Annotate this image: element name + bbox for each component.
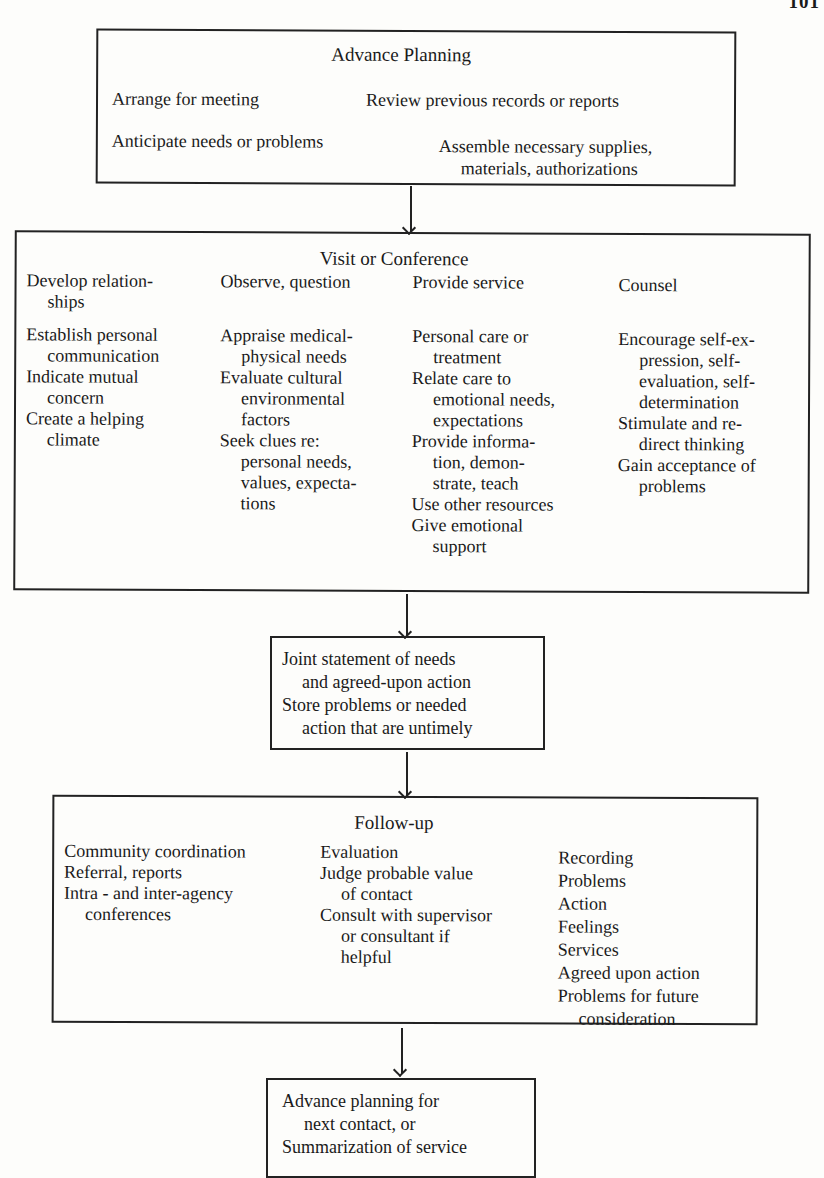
list-item: Relate care toemotional needs,expectatio… xyxy=(412,368,555,432)
list-item: Action xyxy=(558,893,700,916)
list-item: Stimulate and re-direct thinking xyxy=(618,413,756,456)
list-item: Evaluate culturalenvironmentalfactors xyxy=(220,367,357,431)
list-item: Services xyxy=(558,939,700,962)
list-item: Provide informa-tion, demon-strate, teac… xyxy=(412,431,555,495)
visit-conference-box: Visit or Conference Develop relation-shi… xyxy=(13,230,811,593)
visit-col-counsel: Counsel Encourage self-ex-pression, self… xyxy=(618,275,757,498)
follow-up-col-evaluation: Evaluation Judge probable valueof contac… xyxy=(320,842,492,969)
arrow-down-icon xyxy=(410,186,412,232)
list-item: Referral, reports xyxy=(64,862,246,884)
col-heading: Develop relation-ships xyxy=(26,270,159,313)
list-item: Seek clues re:personal needs,values, exp… xyxy=(220,430,357,515)
list-item: Establish personalcommunication xyxy=(26,324,159,367)
ap-item-assemble-cont: materials, authorizations xyxy=(461,158,638,180)
ap-item-anticipate: Anticipate needs or problems xyxy=(112,131,324,153)
arrow-down-icon xyxy=(406,594,408,636)
advance-planning-box: Advance Planning Arrange for meeting Rev… xyxy=(96,29,737,187)
visit-col-relationships: Develop relation-ships Establish persona… xyxy=(26,270,160,451)
page-number: 101 xyxy=(789,0,821,13)
advance-planning-title: Advance Planning xyxy=(331,44,471,67)
list-item: Personal care ortreatment xyxy=(412,326,555,369)
ap-item-assemble: Assemble necessary supplies, xyxy=(439,136,653,158)
follow-up-col-recording: Recording Problems Action Feelings Servi… xyxy=(558,847,701,1031)
list-item: Recording xyxy=(558,847,700,870)
visit-conference-title: Visit or Conference xyxy=(320,248,469,271)
list-item: Judge probable valueof contact xyxy=(320,863,492,906)
list-item: Create a helpingclimate xyxy=(26,408,159,451)
ap-item-review: Review previous records or reports xyxy=(366,90,619,112)
list-item: Appraise medical-physical needs xyxy=(220,325,357,368)
list-item: Evaluation xyxy=(320,842,492,864)
follow-up-title: Follow-up xyxy=(354,812,433,834)
follow-up-box: Follow-up Community coordination Referra… xyxy=(52,795,759,1025)
arrow-down-icon xyxy=(406,752,408,796)
list-item: Feelings xyxy=(558,916,700,939)
col-heading: Observe, question xyxy=(221,271,358,293)
arrow-down-icon xyxy=(401,1028,403,1074)
list-item: Problems for futureconsideration xyxy=(558,985,700,1031)
final-planning-box: Advance planning for next contact, or Su… xyxy=(266,1078,536,1178)
list-item: Intra - and inter-agencyconferences xyxy=(64,883,246,926)
final-planning-text: Advance planning for next contact, or Su… xyxy=(282,1090,467,1159)
list-item: Consult with supervisoror consultant ifh… xyxy=(320,905,492,969)
list-item: Agreed upon action xyxy=(558,962,700,985)
list-item: Problems xyxy=(558,870,700,893)
list-item: Encourage self-ex-pression, self-evaluat… xyxy=(618,329,756,414)
follow-up-col-coordination: Community coordination Referral, reports… xyxy=(64,841,246,926)
joint-statement-box: Joint statement of needs and agreed-upon… xyxy=(270,636,545,750)
joint-statement-text: Joint statement of needs and agreed-upon… xyxy=(282,648,472,740)
list-item: Use other resources xyxy=(412,494,555,516)
col-heading: Provide service xyxy=(413,272,556,294)
list-item: Gain acceptance ofproblems xyxy=(618,455,756,498)
ap-item-arrange: Arrange for meeting xyxy=(112,89,259,111)
visit-col-provide-service: Provide service Personal care ortreatmen… xyxy=(411,272,555,558)
list-item: Community coordination xyxy=(64,841,246,863)
visit-col-observe: Observe, question Appraise medical-physi… xyxy=(220,271,358,515)
list-item: Indicate mutualconcern xyxy=(26,366,159,409)
col-heading: Counsel xyxy=(619,275,757,297)
list-item: Give emotionalsupport xyxy=(411,515,554,558)
